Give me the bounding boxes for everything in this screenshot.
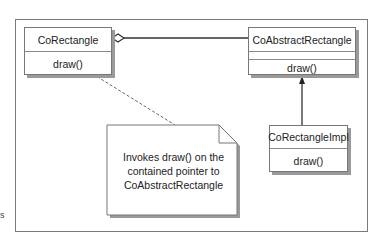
class-name: CoRectangleImpl	[270, 126, 347, 149]
class-corectangleimpl: CoRectangleImpl draw()	[269, 125, 348, 172]
class-name: CoAbstractRectangle	[249, 28, 355, 52]
operation: draw()	[270, 149, 347, 172]
note-text: Invokes draw() on the contained pointer …	[107, 150, 240, 192]
class-name: CoRectangle	[25, 28, 111, 52]
attributes-section	[249, 52, 355, 60]
class-corectangle: CoRectangle draw()	[24, 27, 112, 75]
arrowhead-icon	[299, 76, 305, 84]
note-line: contained pointer to	[107, 164, 240, 178]
aggregation-diamond-icon	[112, 34, 124, 42]
operation: draw()	[25, 52, 111, 75]
note-line: Invokes draw() on the	[107, 150, 240, 164]
operation: draw()	[249, 60, 355, 75]
class-coabstractrectangle: CoAbstractRectangle draw()	[248, 27, 356, 75]
note-line: CoAbstractRectangle	[107, 178, 240, 192]
